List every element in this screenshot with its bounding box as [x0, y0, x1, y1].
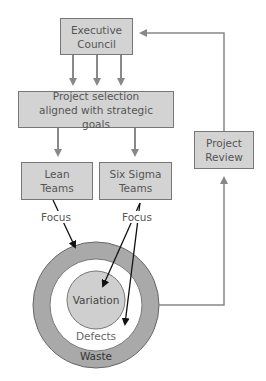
executive-council-node: Executive Council	[60, 18, 133, 55]
waste-label: Waste	[66, 350, 126, 362]
council-to-selection-arrows	[73, 54, 121, 84]
selection-to-teams-arrows	[58, 128, 135, 155]
project-review-label: Project Review	[201, 136, 247, 164]
project-selection-node: Project selection aligned with strategic…	[18, 91, 174, 128]
lean-teams-node: Lean Teams	[21, 162, 93, 200]
lean-teams-label: Lean Teams	[36, 167, 78, 195]
executive-council-label: Executive Council	[61, 23, 132, 51]
lean-focus-label: Focus	[36, 211, 76, 223]
project-review-node: Project Review	[194, 131, 254, 169]
six-sigma-teams-node: Six Sigma Teams	[99, 162, 172, 200]
project-selection-label: Project selection aligned with strategic…	[33, 89, 159, 131]
six-sigma-focus-label: Focus	[117, 211, 157, 223]
variation-label: Variation	[66, 294, 126, 306]
six-sigma-teams-label: Six Sigma Teams	[108, 167, 163, 195]
defects-label: Defects	[66, 330, 126, 342]
